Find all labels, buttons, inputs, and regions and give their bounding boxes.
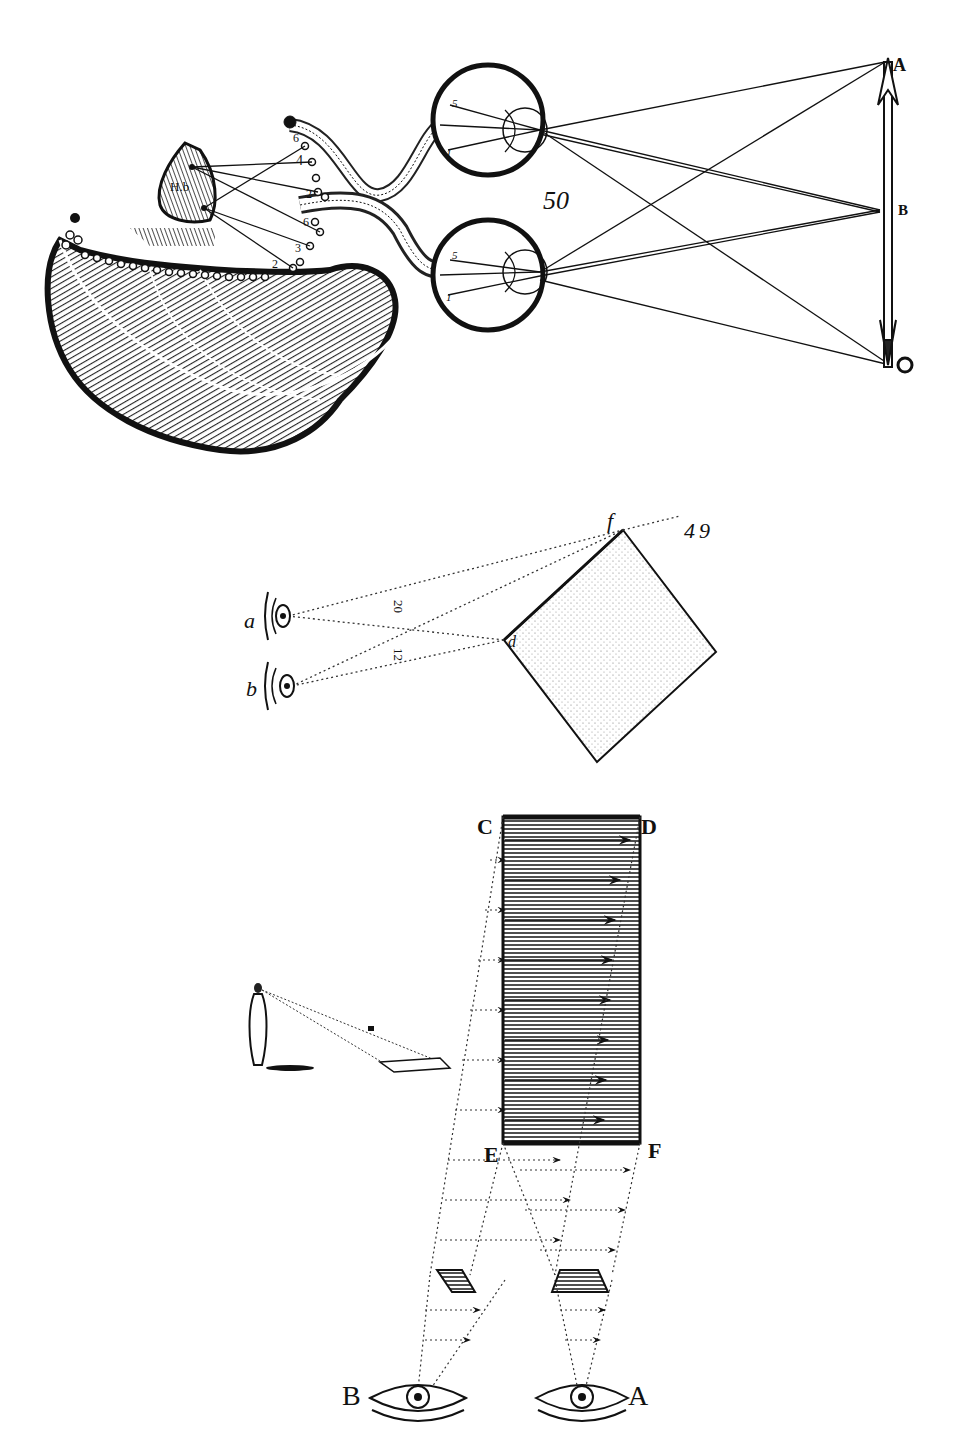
distance-label-12: 12 [392,648,405,661]
corner-label-F: F [648,1140,661,1162]
figure-number-49: 49 [684,520,714,542]
binocular-vision-drawing [0,0,964,470]
projected-shape-left [437,1270,475,1292]
nerve-number-2: 2 [306,188,312,200]
corner-label-C: C [477,816,493,838]
retina-number-1-lower: 1 [446,292,452,303]
corner-label-d: d [508,634,516,650]
eye-a [265,592,290,640]
binocular-vision-figure: A B 50 H.b 4 2 6 6 3 2 5 1 5 1 [0,0,964,470]
eye-A [536,1385,628,1421]
eye-label-b: b [246,678,257,700]
eye-label-B: B [342,1382,361,1410]
eye-label-a: a [244,610,255,632]
projected-shape-right [552,1270,608,1292]
corner-label-D: D [641,816,657,838]
eye-b [265,662,294,710]
nerve-number-4: 4 [296,154,303,168]
square-viewing-figure: a b f d 20 12 49 [0,500,964,780]
label-A-upper: A [893,56,906,74]
rectangle-CDEF [503,817,640,1143]
corner-label-E: E [484,1144,499,1166]
brain-illustration [48,213,400,451]
retina-number-5-upper: 5 [452,98,458,109]
square-viewing-drawing [0,500,964,780]
nerve-number-6-lower: 6 [303,216,309,228]
corner-label-f: f [607,510,613,532]
nerve-number-6: 6 [293,132,299,144]
distance-label-20: 20 [392,600,405,613]
retina-number-1-upper: 1 [446,148,452,159]
eye-B [370,1385,466,1421]
nerve-number-3-lower: 3 [295,242,301,254]
perspective-figure: C D E F B A [0,800,964,1448]
eye-label-A: A [628,1382,648,1410]
human-figure-with-plane [250,983,451,1072]
retina-number-5-lower: 5 [452,250,458,261]
stippled-square [504,530,716,762]
perspective-drawing [0,800,964,1448]
gland-label: H.b [170,180,189,193]
pineal-gland [130,143,215,246]
label-B-middle: B [898,203,908,218]
figure-number-50: 50 [543,188,569,214]
nerve-number-2-lower: 2 [272,258,278,270]
